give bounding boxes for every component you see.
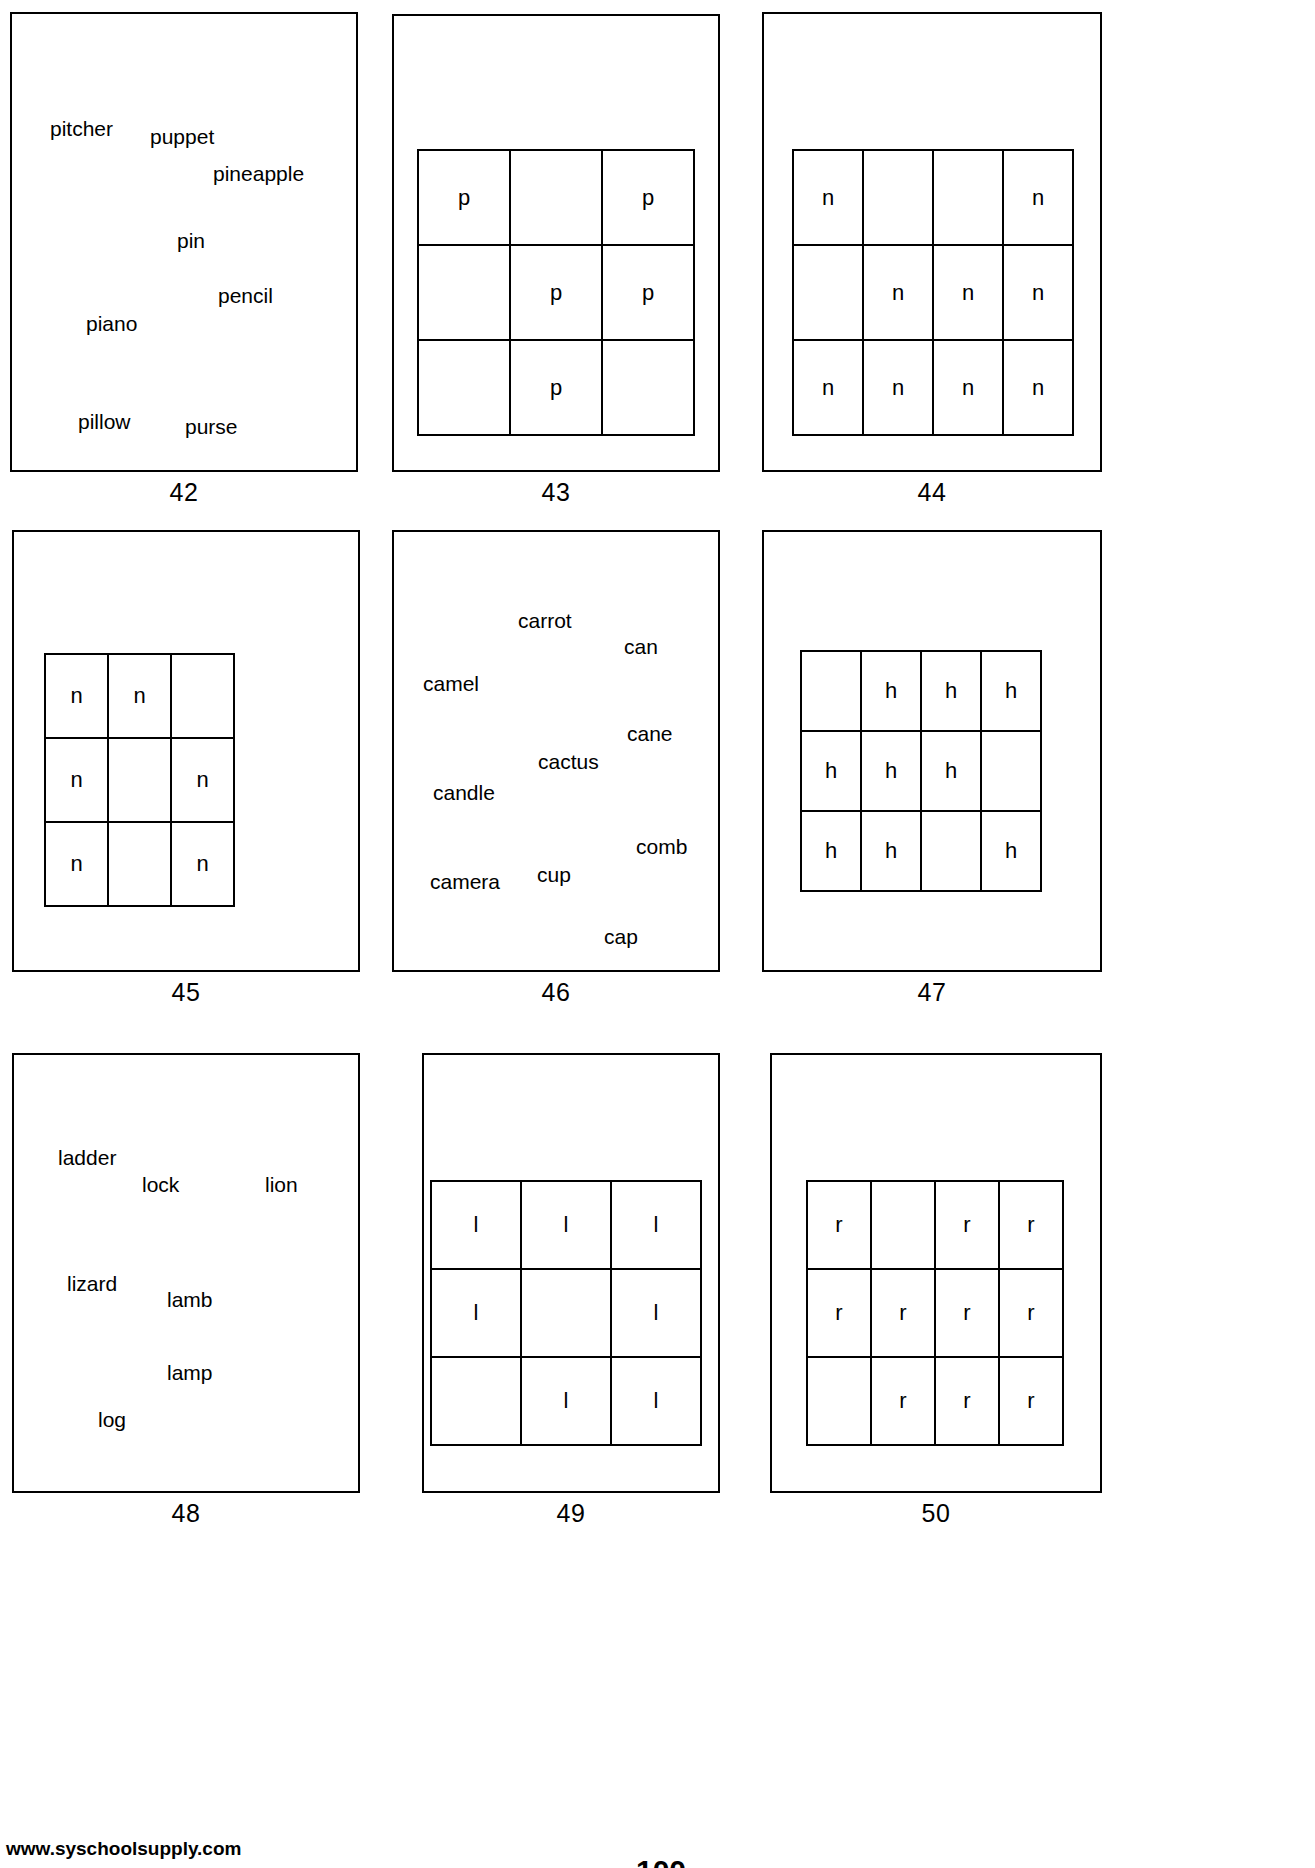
grid-cell: n (794, 341, 864, 436)
card-42-words: pitcher puppet pineapple pin pencil pian… (10, 12, 358, 472)
word-item: lion (265, 1173, 298, 1197)
card-46-words: carrot can camel cane cactus candle comb… (392, 530, 720, 972)
word-item: cactus (538, 750, 599, 774)
word-item: piano (86, 312, 137, 336)
grid-cell: p (419, 151, 511, 246)
grid-cell: h (922, 652, 982, 732)
word-item: candle (433, 781, 495, 805)
word-item: comb (636, 835, 687, 859)
word-item: pillow (78, 410, 131, 434)
grid-cell: p (511, 246, 603, 341)
word-item: lizard (67, 1272, 117, 1296)
grid-cell (172, 655, 235, 739)
grid-cell (794, 246, 864, 341)
grid-cell: r (872, 1358, 936, 1446)
word-item: camel (423, 672, 479, 696)
grid-cell: r (936, 1358, 1000, 1446)
card-number: 42 (10, 478, 358, 507)
card-number: 44 (762, 478, 1102, 507)
grid-cell (432, 1358, 522, 1446)
card-number: 50 (770, 1499, 1102, 1528)
card-number: 46 (392, 978, 720, 1007)
grid-cell: h (862, 732, 922, 812)
footer-page-number: 100 (636, 1854, 686, 1868)
grid-cell: h (982, 812, 1042, 892)
grid-cell: n (46, 655, 109, 739)
grid-cell: n (934, 341, 1004, 436)
letter-grid: n n n n n n (44, 653, 235, 907)
word-item: cap (604, 925, 638, 949)
footer-website-url[interactable]: www.syschoolsupply.com (6, 1838, 241, 1860)
word-item: camera (430, 870, 500, 894)
word-item: purse (185, 415, 238, 439)
word-item: can (624, 635, 658, 659)
word-item: pineapple (213, 162, 304, 186)
grid-cell: h (982, 652, 1042, 732)
grid-cell: n (46, 823, 109, 907)
grid-cell: r (872, 1270, 936, 1358)
letter-grid: p p p p p (417, 149, 695, 436)
word-item: carrot (518, 609, 572, 633)
grid-cell: l (522, 1358, 612, 1446)
grid-cell: h (862, 812, 922, 892)
letter-grid: h h h h h h h h h (800, 650, 1042, 892)
card-number: 49 (422, 1499, 720, 1528)
grid-cell: p (511, 341, 603, 436)
word-item: cane (627, 722, 673, 746)
card-number: 45 (12, 978, 360, 1007)
word-item: lamb (167, 1288, 213, 1312)
card-number: 43 (392, 478, 720, 507)
grid-cell (982, 732, 1042, 812)
grid-cell: h (922, 732, 982, 812)
grid-cell (511, 151, 603, 246)
grid-cell: n (172, 823, 235, 907)
grid-cell: l (612, 1358, 702, 1446)
grid-cell: l (432, 1182, 522, 1270)
grid-cell: r (936, 1270, 1000, 1358)
word-item: log (98, 1408, 126, 1432)
grid-cell (808, 1358, 872, 1446)
grid-cell (934, 151, 1004, 246)
grid-cell: n (109, 655, 172, 739)
grid-cell: n (934, 246, 1004, 341)
grid-cell: n (1004, 246, 1074, 341)
grid-cell: p (603, 246, 695, 341)
letter-grid: n n n n n n n n n (792, 149, 1074, 436)
card-48-words: ladder lock lion lizard lamb lamp log (12, 1053, 360, 1493)
grid-cell: r (1000, 1270, 1064, 1358)
word-item: pitcher (50, 117, 113, 141)
word-item: ladder (58, 1146, 116, 1170)
grid-cell (522, 1270, 612, 1358)
grid-cell (419, 246, 511, 341)
grid-cell (802, 652, 862, 732)
grid-cell (872, 1182, 936, 1270)
grid-cell: n (172, 739, 235, 823)
grid-cell: p (603, 151, 695, 246)
card-number: 47 (762, 978, 1102, 1007)
card-number: 48 (12, 1499, 360, 1528)
letter-grid: l l l l l l l (430, 1180, 702, 1446)
word-item: lock (142, 1173, 179, 1197)
grid-cell: n (1004, 151, 1074, 246)
grid-cell (864, 151, 934, 246)
grid-cell (109, 739, 172, 823)
grid-cell: n (794, 151, 864, 246)
grid-cell: n (46, 739, 109, 823)
grid-cell (922, 812, 982, 892)
grid-cell (419, 341, 511, 436)
word-item: puppet (150, 125, 214, 149)
grid-cell: n (864, 246, 934, 341)
grid-cell: n (1004, 341, 1074, 436)
grid-cell: h (862, 652, 922, 732)
grid-cell: r (808, 1270, 872, 1358)
grid-cell: l (432, 1270, 522, 1358)
word-item: cup (537, 863, 571, 887)
grid-cell: h (802, 812, 862, 892)
grid-cell (109, 823, 172, 907)
grid-cell: h (802, 732, 862, 812)
grid-cell: r (808, 1182, 872, 1270)
grid-cell (603, 341, 695, 436)
word-item: pencil (218, 284, 273, 308)
letter-grid: r r r r r r r r r r (806, 1180, 1064, 1446)
